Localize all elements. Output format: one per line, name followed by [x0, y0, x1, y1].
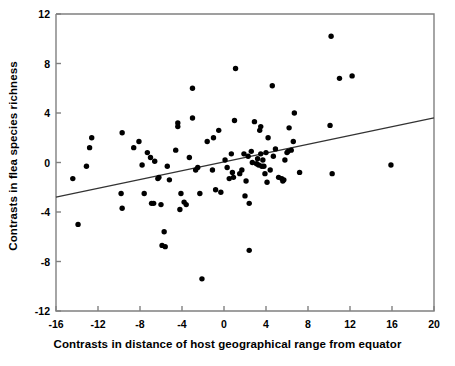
scatter-point — [173, 147, 178, 152]
scatter-point — [210, 167, 215, 172]
x-axis-tick-label: 12 — [344, 318, 356, 330]
scatter-point — [262, 171, 267, 176]
scatter-point — [75, 222, 80, 227]
scatter-point — [265, 135, 270, 140]
scatter-point — [165, 164, 170, 169]
scatter-point — [213, 187, 218, 192]
plot-canvas — [0, 0, 455, 366]
scatter-point — [190, 115, 195, 120]
scatter-point — [218, 190, 223, 195]
scatter-point — [158, 202, 163, 207]
scatter-point — [349, 73, 354, 78]
x-axis-tick-label: -16 — [48, 318, 63, 330]
scatter-point — [167, 177, 172, 182]
scatter-point — [187, 155, 192, 160]
scatter-point — [178, 191, 183, 196]
scatter-point — [291, 139, 296, 144]
scatter-point — [252, 119, 257, 124]
scatter-point — [268, 167, 273, 172]
scatter-point — [297, 170, 302, 175]
scatter-point — [148, 155, 153, 160]
scatter-point — [281, 177, 286, 182]
scatter-point — [264, 180, 269, 185]
scatter-point — [190, 86, 195, 91]
scatter-point — [239, 167, 244, 172]
scatter-point — [136, 139, 141, 144]
y-axis-tick-label: 0 — [22, 157, 50, 169]
scatter-point — [229, 151, 234, 156]
scatter-point — [205, 139, 210, 144]
scatter-point — [145, 150, 150, 155]
scatter-plot-figure: Contrasts in flea species richness Contr… — [0, 0, 455, 366]
scatter-point — [230, 170, 235, 175]
scatter-point — [199, 276, 204, 281]
scatter-point — [151, 201, 156, 206]
scatter-point — [233, 66, 238, 71]
scatter-point — [271, 154, 276, 159]
x-axis-tick-label: 8 — [305, 318, 311, 330]
scatter-point — [142, 191, 147, 196]
scatter-point — [286, 125, 291, 130]
scatter-point — [247, 201, 252, 206]
regression-line — [56, 118, 434, 197]
scatter-point — [131, 145, 136, 150]
scatter-point — [270, 83, 275, 88]
plot-frame — [56, 14, 434, 311]
scatter-point — [139, 162, 144, 167]
scatter-point — [263, 150, 268, 155]
scatter-point — [152, 159, 157, 164]
scatter-point — [216, 128, 221, 133]
scatter-point — [249, 149, 254, 154]
scatter-point — [211, 135, 216, 140]
scatter-series — [70, 34, 394, 282]
scatter-point — [119, 130, 124, 135]
x-axis-tick-label: -8 — [135, 318, 144, 330]
x-axis-tick-label: -12 — [90, 318, 105, 330]
scatter-point — [70, 176, 75, 181]
scatter-point — [87, 145, 92, 150]
scatter-point — [273, 146, 278, 151]
scatter-point — [232, 118, 237, 123]
scatter-point — [163, 244, 168, 249]
scatter-point — [289, 147, 294, 152]
x-axis-tick-label: 20 — [428, 318, 440, 330]
scatter-point — [177, 207, 182, 212]
scatter-point — [195, 165, 200, 170]
scatter-point — [258, 124, 263, 129]
scatter-point — [292, 110, 297, 115]
y-axis-tick-label: -8 — [22, 256, 50, 268]
scatter-point — [119, 206, 124, 211]
x-axis-tick-label: -4 — [177, 318, 186, 330]
scatter-point — [156, 175, 161, 180]
scatter-point — [260, 157, 265, 162]
scatter-point — [242, 193, 247, 198]
scatter-point — [328, 34, 333, 39]
y-axis-tick-label: -12 — [22, 305, 50, 317]
scatter-point — [329, 171, 334, 176]
scatter-point — [245, 154, 250, 159]
y-axis-tick-label: 12 — [22, 8, 50, 20]
scatter-point — [327, 123, 332, 128]
scatter-point — [258, 151, 263, 156]
scatter-point — [388, 162, 393, 167]
scatter-point — [247, 248, 252, 253]
scatter-point — [243, 178, 248, 183]
scatter-point — [231, 175, 236, 180]
scatter-point — [224, 165, 229, 170]
x-axis-tick-label: 4 — [263, 318, 269, 330]
scatter-point — [261, 164, 266, 169]
scatter-point — [84, 164, 89, 169]
scatter-point — [175, 120, 180, 125]
x-axis-tick-label: 0 — [221, 318, 227, 330]
scatter-point — [337, 76, 342, 81]
scatter-point — [255, 156, 260, 161]
scatter-point — [161, 229, 166, 234]
scatter-point — [89, 135, 94, 140]
y-axis-tick-label: 8 — [22, 58, 50, 70]
y-axis-tick-label: -4 — [22, 206, 50, 218]
scatter-point — [118, 191, 123, 196]
x-axis-tick-label: 16 — [386, 318, 398, 330]
scatter-point — [197, 191, 202, 196]
y-axis-tick-label: 4 — [22, 107, 50, 119]
scatter-point — [222, 157, 227, 162]
